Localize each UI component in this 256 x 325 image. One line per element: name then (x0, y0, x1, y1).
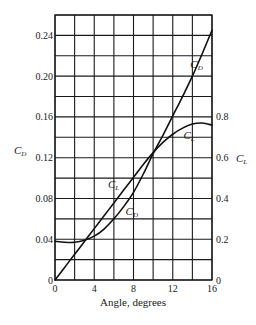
y-left-tick-label: 0.04 (36, 234, 54, 245)
grid (55, 15, 212, 280)
y-left-tick-label: 0.24 (36, 30, 54, 41)
y-right-tick-label: 0 (216, 275, 221, 286)
chart: 048121600.040.080.120.160.200.2400.20.40… (0, 0, 256, 325)
y-left-tick-label: 0 (48, 275, 53, 286)
y-left-tick-label: 0.08 (36, 193, 54, 204)
x-tick-label: 8 (131, 283, 136, 294)
y-left-tick-label: 0.16 (36, 111, 54, 122)
y-right-tick-label: 0.8 (216, 111, 229, 122)
x-axis-label: Angle, degrees (100, 296, 166, 308)
x-tick-label: 12 (168, 283, 178, 294)
y-axis-left-label: CD (14, 144, 26, 158)
series-c-l-label: CL (183, 129, 194, 143)
y-axis-right-label: CL (236, 152, 247, 166)
x-tick-label: 4 (92, 283, 97, 294)
series-c-d-label: CD (190, 58, 202, 72)
y-right-tick-label: 0.6 (216, 152, 229, 163)
series-c-d-label: CD (126, 205, 138, 219)
y-right-tick-label: 0.4 (216, 193, 229, 204)
y-left-tick-label: 0.20 (36, 71, 54, 82)
series-c-l-label: CL (108, 178, 119, 192)
x-tick-label: 0 (53, 283, 58, 294)
y-right-tick-label: 0.2 (216, 234, 229, 245)
y-left-tick-label: 0.12 (36, 152, 54, 163)
series-labels: CDCDCLCL (108, 58, 203, 219)
